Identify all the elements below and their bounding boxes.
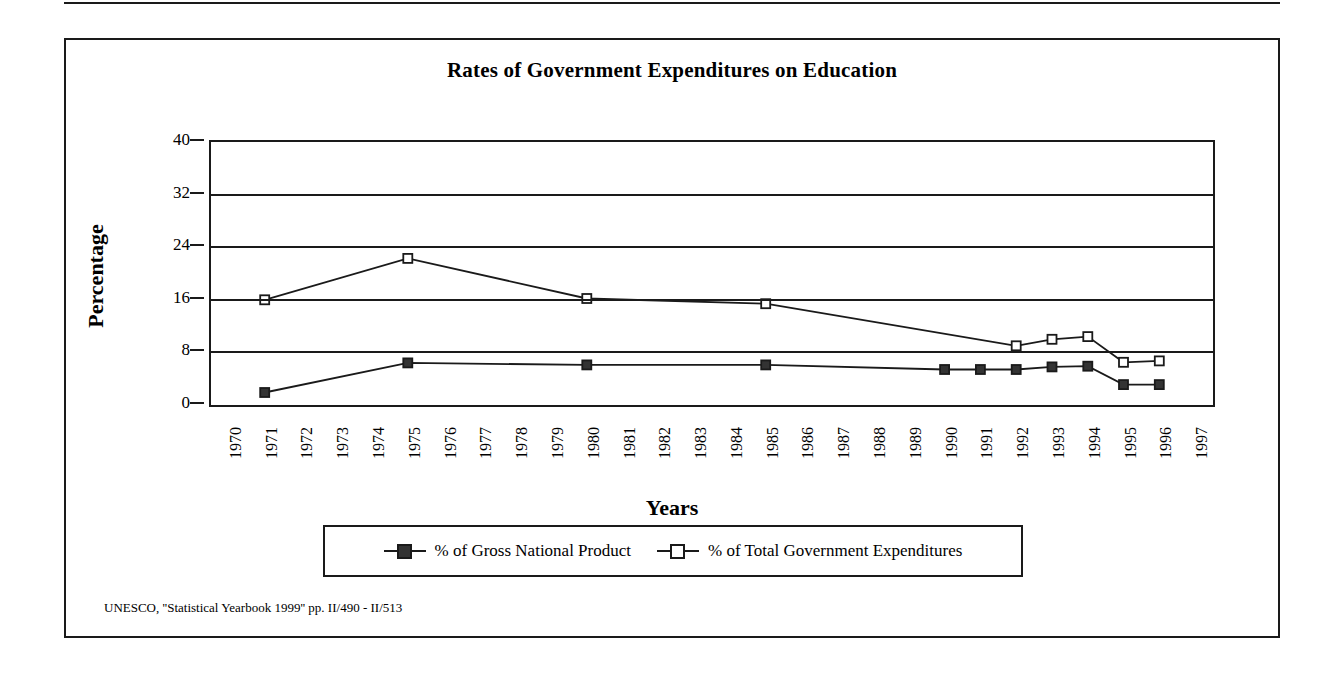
x-tick-label: 1978 <box>513 427 531 459</box>
y-tick-label: 8 <box>130 340 190 360</box>
data-point-marker <box>403 254 412 263</box>
data-point-marker <box>1048 335 1057 344</box>
legend-label-total-gov-exp: % of Total Government Expenditures <box>708 541 962 561</box>
x-tick-label: 1987 <box>835 427 853 459</box>
data-point-marker <box>1119 380 1128 389</box>
x-tick-label: 1997 <box>1193 427 1211 459</box>
x-tick-label: 1991 <box>978 427 996 459</box>
data-point-marker <box>1048 362 1057 371</box>
x-tick-label: 1986 <box>799 427 817 459</box>
chart-title: Rates of Government Expenditures on Educ… <box>66 58 1278 83</box>
data-point-marker <box>1012 365 1021 374</box>
x-tick-label: 1975 <box>406 427 424 459</box>
data-point-marker <box>976 365 985 374</box>
filled-square-marker-icon <box>384 543 426 559</box>
x-tick-label: 1973 <box>334 427 352 459</box>
source-note: UNESCO, ''Statistical Yearbook 1999'' pp… <box>104 600 402 616</box>
x-tick-label: 1977 <box>477 427 495 459</box>
x-tick-label: 1985 <box>764 427 782 459</box>
legend-item-gnp: % of Gross National Product <box>384 541 631 561</box>
data-point-marker <box>940 365 949 374</box>
grid-line <box>211 351 1213 353</box>
x-tick-label: 1971 <box>263 427 281 459</box>
x-tick-label: 1984 <box>728 427 746 459</box>
y-axis-tick-labels: 0816243240 <box>126 132 204 415</box>
y-tick-mark <box>190 244 204 246</box>
plot-area <box>209 140 1215 407</box>
x-tick-label: 1974 <box>370 427 388 459</box>
y-tick-label: 40 <box>130 130 190 150</box>
y-tick-label: 24 <box>130 235 190 255</box>
page-top-rule <box>64 2 1280 4</box>
series-line-2 <box>265 258 1160 362</box>
hollow-square-marker-icon <box>657 543 699 559</box>
x-tick-label: 1992 <box>1014 427 1032 459</box>
x-tick-label: 1982 <box>656 427 674 459</box>
x-tick-label: 1995 <box>1122 427 1140 459</box>
data-point-marker <box>1119 358 1128 367</box>
y-tick-mark <box>190 139 204 141</box>
y-tick-mark <box>190 349 204 351</box>
x-tick-label: 1979 <box>549 427 567 459</box>
y-axis-title: Percentage <box>83 224 109 327</box>
data-point-marker <box>260 388 269 397</box>
data-point-marker <box>1083 332 1092 341</box>
x-axis-title: Years <box>66 495 1278 521</box>
x-tick-label: 1981 <box>621 427 639 459</box>
data-point-marker <box>1012 341 1021 350</box>
data-point-marker <box>403 358 412 367</box>
grid-line <box>211 246 1213 248</box>
data-point-marker <box>1155 356 1164 365</box>
x-tick-label: 1989 <box>907 427 925 459</box>
series-lines <box>211 142 1213 405</box>
x-tick-label: 1980 <box>585 427 603 459</box>
x-tick-label: 1970 <box>227 427 245 459</box>
y-tick-label: 32 <box>130 183 190 203</box>
x-tick-label: 1972 <box>298 427 316 459</box>
x-tick-label: 1994 <box>1086 427 1104 459</box>
data-point-marker <box>1155 380 1164 389</box>
data-point-marker <box>1083 362 1092 371</box>
legend-label-gnp: % of Gross National Product <box>435 541 631 561</box>
chart-container: Rates of Government Expenditures on Educ… <box>64 38 1280 638</box>
y-tick-mark <box>190 297 204 299</box>
y-tick-mark <box>190 402 204 404</box>
grid-line <box>211 194 1213 196</box>
y-tick-label: 16 <box>130 288 190 308</box>
data-point-marker <box>761 360 770 369</box>
x-tick-label: 1993 <box>1050 427 1068 459</box>
legend-item-total-gov-exp: % of Total Government Expenditures <box>657 541 962 561</box>
x-axis-tick-labels: 1970197119721973197419751976197719781979… <box>209 412 1215 494</box>
series-line-1 <box>265 363 1160 393</box>
y-tick-mark <box>190 192 204 194</box>
data-point-marker <box>582 360 591 369</box>
x-tick-label: 1996 <box>1157 427 1175 459</box>
x-tick-label: 1983 <box>692 427 710 459</box>
x-tick-label: 1976 <box>442 427 460 459</box>
x-tick-label: 1990 <box>943 427 961 459</box>
chart-legend: % of Gross National Product % of Total G… <box>323 525 1023 577</box>
grid-line <box>211 299 1213 301</box>
x-tick-label: 1988 <box>871 427 889 459</box>
y-tick-label: 0 <box>130 393 190 413</box>
